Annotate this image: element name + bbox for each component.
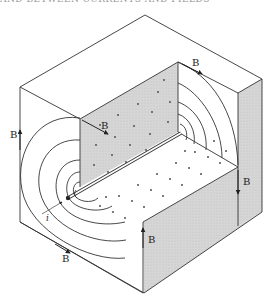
label-b-wall: B	[101, 120, 108, 131]
right-face	[238, 79, 262, 226]
label-current-i: i	[46, 213, 49, 223]
notch-back-wall	[80, 62, 178, 187]
label-b-front: B	[148, 234, 155, 245]
block-outline	[20, 15, 262, 293]
label-b-top-right: B	[192, 57, 199, 68]
field-diagram: B B B B B B i	[0, 0, 278, 303]
label-b-left: B	[10, 129, 17, 140]
label-b-bottom: B	[62, 253, 69, 264]
label-b-right: B	[243, 176, 250, 187]
shaded-faces	[80, 62, 262, 293]
